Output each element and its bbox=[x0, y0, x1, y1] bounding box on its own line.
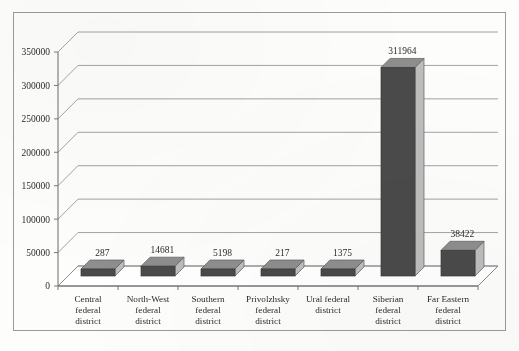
category-label-line: district bbox=[135, 316, 161, 326]
y-tick-label: 0 bbox=[45, 281, 50, 291]
x-axis-category-labels: CentralfederaldistrictNorth-Westfederald… bbox=[74, 294, 469, 326]
bar-front-face bbox=[321, 269, 355, 276]
y-tick-label: 150000 bbox=[22, 181, 51, 191]
bar-value-label: 5198 bbox=[213, 248, 232, 258]
bar-front-face bbox=[201, 269, 235, 276]
bar-front-face bbox=[261, 269, 295, 276]
y-tick-label: 200000 bbox=[22, 148, 51, 158]
category-label-line: Ural federal bbox=[306, 294, 351, 304]
bar-value-label: 38422 bbox=[451, 229, 475, 239]
bar-value-label: 14681 bbox=[151, 245, 175, 255]
category-label-line: Privolzhsky bbox=[246, 294, 290, 304]
bar-7 bbox=[441, 241, 484, 276]
category-label-line: Central bbox=[74, 294, 101, 304]
category-label-line: federal bbox=[435, 305, 461, 315]
y-axis-tick-marks bbox=[54, 52, 58, 286]
bar-front-face bbox=[441, 250, 475, 276]
bar-side-face bbox=[415, 58, 424, 276]
category-label-line: district bbox=[375, 316, 401, 326]
category-label-line: federal bbox=[195, 305, 221, 315]
category-label-line: Southern bbox=[191, 294, 225, 304]
category-label-line: North-West bbox=[127, 294, 170, 304]
bar-value-label: 311964 bbox=[388, 46, 416, 56]
bar-4 bbox=[261, 260, 304, 276]
bar-front-face bbox=[81, 269, 115, 276]
y-tick-label: 250000 bbox=[22, 114, 51, 124]
bar-series bbox=[81, 58, 484, 276]
y-tick-label: 350000 bbox=[22, 47, 51, 57]
bar-front-face bbox=[141, 266, 175, 276]
category-label-line: Far Eastern bbox=[427, 294, 469, 304]
category-label-line: district bbox=[75, 316, 101, 326]
bar-front-face bbox=[381, 67, 415, 276]
bar-value-label: 217 bbox=[275, 248, 290, 258]
y-tick-label: 100000 bbox=[22, 215, 51, 225]
category-label-line: federal bbox=[375, 305, 401, 315]
bar-value-label: 287 bbox=[95, 248, 110, 258]
y-tick-label: 50000 bbox=[26, 248, 50, 258]
bar-chart-figure: 0 50000 100000 150000 200000 250000 3000… bbox=[0, 0, 519, 351]
bar-5 bbox=[321, 260, 364, 276]
category-label-line: district bbox=[195, 316, 221, 326]
category-label-line: federal bbox=[75, 305, 101, 315]
y-tick-label: 300000 bbox=[22, 81, 51, 91]
bar-3 bbox=[201, 260, 244, 276]
bar-2 bbox=[141, 257, 184, 276]
x-axis-tick-marks bbox=[58, 286, 478, 290]
category-label-line: district bbox=[255, 316, 281, 326]
category-label-line: Siberian bbox=[373, 294, 404, 304]
bar-6 bbox=[381, 58, 424, 276]
category-label-line: district bbox=[435, 316, 461, 326]
y-axis-tick-labels: 0 50000 100000 150000 200000 250000 3000… bbox=[22, 47, 51, 291]
category-label-line: federal bbox=[255, 305, 281, 315]
category-label-line: district bbox=[315, 305, 341, 315]
bar-value-label: 1375 bbox=[333, 248, 352, 258]
bar-1 bbox=[81, 260, 124, 276]
chart-canvas: 0 50000 100000 150000 200000 250000 3000… bbox=[0, 0, 519, 351]
category-label-line: federal bbox=[135, 305, 161, 315]
